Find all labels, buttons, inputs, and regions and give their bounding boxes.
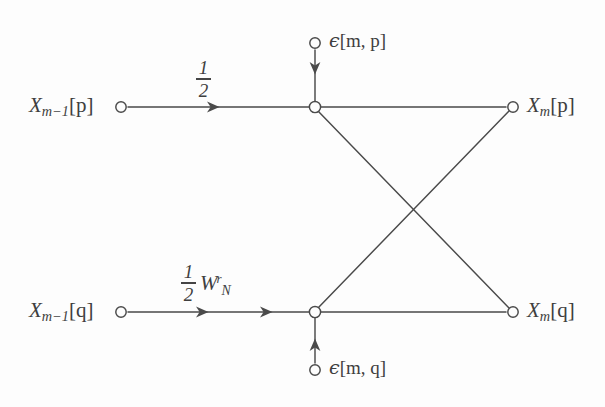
fraction-numerator-top: 1 <box>197 58 211 78</box>
label-input-bottom: Xm−1[q] <box>29 300 93 324</box>
node-input-top <box>116 102 126 112</box>
label-output-top-index: [p] <box>550 93 575 117</box>
label-output-top-subscript: m <box>540 103 550 119</box>
signal-flow-graph-canvas <box>0 0 605 407</box>
fraction-one-half-top: 1 2 <box>196 58 211 100</box>
node-junction-bottom <box>309 306 320 317</box>
node-noise-bottom <box>310 365 320 375</box>
label-noise-top: ϵ[m, p] <box>329 31 386 50</box>
label-noise-top-symbol: ϵ <box>329 29 340 51</box>
label-input-top: Xm−1[p] <box>29 95 93 119</box>
fraction-one-half-bottom: 1 2 <box>181 262 196 304</box>
twiddle-base: W <box>200 271 218 295</box>
label-noise-top-args: [m, p] <box>340 30 386 51</box>
label-noise-bottom-args: [m, q] <box>340 357 386 378</box>
gain-top-branch: 1 2 <box>196 58 211 100</box>
label-output-bottom-base: X <box>527 298 540 322</box>
fraction-denominator-bottom: 2 <box>182 284 196 304</box>
label-input-bottom-subscript: m−1 <box>42 308 69 324</box>
label-input-top-subscript: m−1 <box>42 103 69 119</box>
branch-arrowheads <box>196 62 320 351</box>
label-output-top-base: X <box>527 93 540 117</box>
label-input-top-base: X <box>29 93 42 117</box>
label-output-bottom-subscript: m <box>540 308 550 324</box>
label-noise-bottom: ϵ[m, q] <box>329 358 386 377</box>
node-output-top <box>508 102 518 112</box>
node-junction-top <box>309 101 320 112</box>
fraction-numerator-bottom: 1 <box>182 262 196 282</box>
fraction-denominator-top: 2 <box>197 80 211 100</box>
node-noise-top <box>310 38 320 48</box>
label-output-bottom: Xm[q] <box>527 300 575 324</box>
gain-bottom-branch: 1 2 WrN <box>181 262 231 304</box>
butterfly-diagram: Xm−1[p] Xm−1[q] Xm[p] Xm[q] ϵ[m, p] ϵ[m,… <box>0 0 605 407</box>
label-input-top-index: [p] <box>69 93 94 117</box>
label-output-top: Xm[p] <box>527 95 575 119</box>
label-noise-bottom-symbol: ϵ <box>329 356 340 378</box>
twiddle-subscript: N <box>222 283 231 298</box>
twiddle-factor: WrN <box>200 271 231 299</box>
label-input-bottom-index: [q] <box>69 298 94 322</box>
node-circles <box>116 38 518 375</box>
label-input-bottom-base: X <box>29 298 42 322</box>
node-input-bottom <box>116 307 126 317</box>
label-output-bottom-index: [q] <box>550 298 575 322</box>
node-output-bottom <box>508 307 518 317</box>
